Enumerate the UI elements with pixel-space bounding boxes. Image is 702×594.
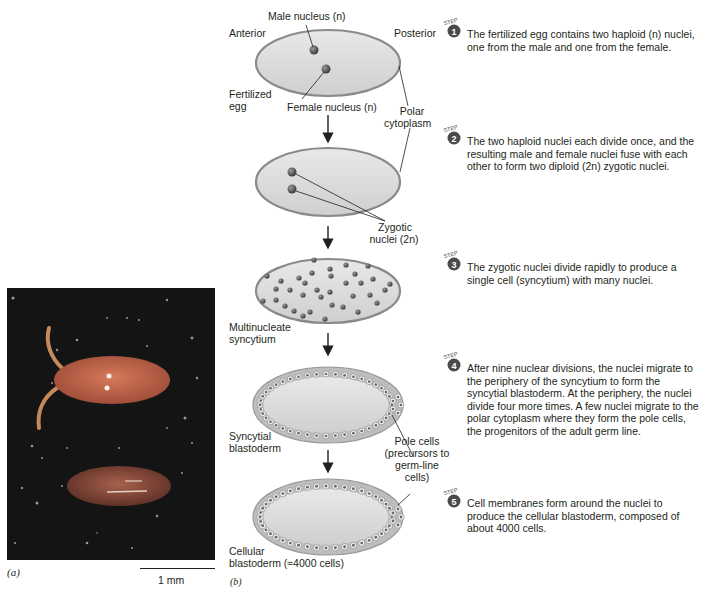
svg-text:1: 1 <box>451 27 456 37</box>
svg-text:STEP: STEP <box>443 17 459 27</box>
svg-text:4: 4 <box>451 361 456 371</box>
pole-cells-label-line3: germ-line <box>384 459 450 471</box>
pole-cells-label-line1: Pole cells <box>384 435 450 447</box>
svg-text:2: 2 <box>451 134 456 144</box>
step-badges: 1 STEP 2 STEP 3 STEP 4 STEP 5 STEP <box>443 17 461 508</box>
svg-text:STEP: STEP <box>443 250 459 260</box>
zygotic-egg <box>256 128 410 221</box>
svg-text:STEP: STEP <box>443 124 459 134</box>
clipped-caption <box>0 588 682 594</box>
pole-cells-label-line4: cells) <box>384 471 450 483</box>
polar-cytoplasm-label-line2: cytoplasm <box>384 117 431 129</box>
cellular-blastoderm <box>253 479 410 555</box>
syncytial-blastoderm-label-line2: blastoderm <box>229 442 281 454</box>
step-5-text: Cell membranes form around the nuclei to… <box>467 497 702 535</box>
svg-text:5: 5 <box>451 497 456 507</box>
svg-text:3: 3 <box>451 260 456 270</box>
anterior-label: Anterior <box>229 27 266 39</box>
female-nucleus-label: Female nucleus (n) <box>287 101 377 113</box>
zygotic-nuclei-label-line1: Zygotic <box>368 221 422 233</box>
svg-text:STEP: STEP <box>443 487 459 497</box>
female-nucleus <box>322 65 331 74</box>
step-3-text: The zygotic nuclei divide rapidly to pro… <box>467 261 702 286</box>
multinucleate-label-line2: syncytium <box>229 333 276 345</box>
polar-cytoplasm-label-line1: Polar <box>394 105 430 117</box>
step-2-text: The two haploid nuclei each divide once,… <box>467 135 702 173</box>
pole-cells-label-line2: (precursors to <box>382 447 452 459</box>
male-nucleus <box>310 46 319 55</box>
cellular-blastoderm-label-line1: Cellular <box>229 545 265 557</box>
posterior-label: Posterior <box>394 27 436 39</box>
multinucleate-label-line1: Multinucleate <box>229 321 291 333</box>
multinucleate-syncytium <box>256 257 400 323</box>
svg-text:STEP: STEP <box>443 351 459 361</box>
cellular-blastoderm-label-line2: blastoderm (≈4000 cells) <box>229 557 344 569</box>
fertilized-egg-label-line2: egg <box>229 100 247 112</box>
syncytial-blastoderm-label-line1: Syncytial <box>229 430 271 442</box>
step-1-text: The fertilized egg contains two haploid … <box>467 28 702 53</box>
male-nucleus-label: Male nucleus (n) <box>268 10 346 22</box>
fertilized-egg <box>256 25 408 106</box>
zygotic-nuclei-label-line2: nuclei (2n) <box>364 233 424 245</box>
fertilized-egg-label-line1: Fertilized <box>229 88 272 100</box>
step-4-text: After nine nuclear divisions, the nuclei… <box>467 362 702 438</box>
